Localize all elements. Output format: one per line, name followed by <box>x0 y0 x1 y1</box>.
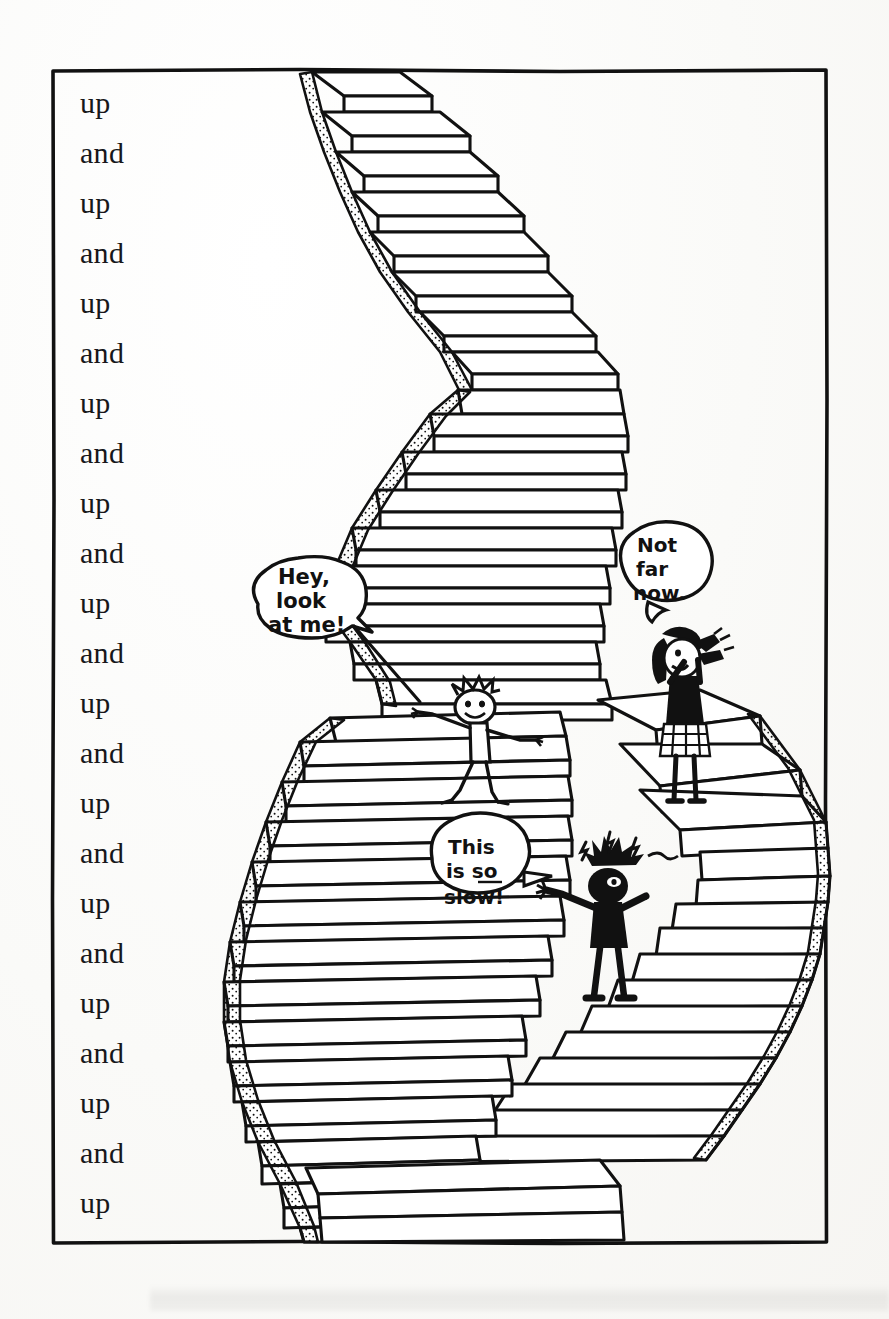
text-line: up <box>80 478 230 528</box>
text-line: and <box>80 328 230 378</box>
text-line: and <box>80 528 230 578</box>
text-line: and <box>80 728 230 778</box>
text-line: up <box>80 978 230 1028</box>
text-line: and <box>80 1128 230 1178</box>
staircase-drawing <box>224 72 830 1242</box>
bubble-hey-line-1: Hey, <box>278 565 330 589</box>
stair-landing-right <box>430 690 830 1162</box>
page-scan-shadow <box>150 1285 889 1311</box>
text-line: up <box>80 678 230 728</box>
text-line: and <box>80 628 230 678</box>
character-falling-child <box>411 677 543 804</box>
text-line: and <box>80 128 230 178</box>
text-line: and <box>80 928 230 978</box>
text-line: up <box>80 178 230 228</box>
bubble-not-line-1: Not <box>637 533 677 557</box>
bubble-hey-line-3: at me! <box>268 613 345 637</box>
bubble-not-line-2: far <box>636 557 668 581</box>
bubble-not-line-3: now. <box>633 581 686 605</box>
speech-bubble-hey-look-at-me: Hey, look at me! <box>254 557 421 702</box>
stair-run-left-lower <box>224 712 572 1242</box>
speech-bubble-not-far-now: Not far now. <box>621 522 713 622</box>
text-line: up <box>80 278 230 328</box>
text-line: up <box>80 378 230 428</box>
speech-bubble-this-is-so-slow: This is so slow! <box>431 813 552 909</box>
text-line: and <box>80 228 230 278</box>
text-line: up <box>80 878 230 928</box>
text-line: up <box>80 778 230 828</box>
up-and-text-column: up and up and up and up and up and up an… <box>80 78 230 1228</box>
text-line: and <box>80 428 230 478</box>
text-line: up <box>80 78 230 128</box>
bubble-hey-line-2: look <box>276 589 327 613</box>
character-shouting-girl <box>652 627 734 801</box>
bubble-slow-line-1: This <box>448 835 495 859</box>
comic-page: Hey, look at me! Not far now. This is so… <box>0 0 889 1319</box>
text-line: up <box>80 1078 230 1128</box>
bubble-slow-line-3: slow! <box>444 885 504 909</box>
text-line: and <box>80 828 230 878</box>
stair-run-second <box>322 390 628 720</box>
character-frustrated-kid <box>536 832 678 998</box>
text-line: and <box>80 1028 230 1078</box>
stair-run-top <box>300 72 618 392</box>
stair-base <box>306 1160 624 1242</box>
bubble-slow-line-2: is so <box>446 859 497 883</box>
text-line: up <box>80 578 230 628</box>
text-line: up <box>80 1178 230 1228</box>
